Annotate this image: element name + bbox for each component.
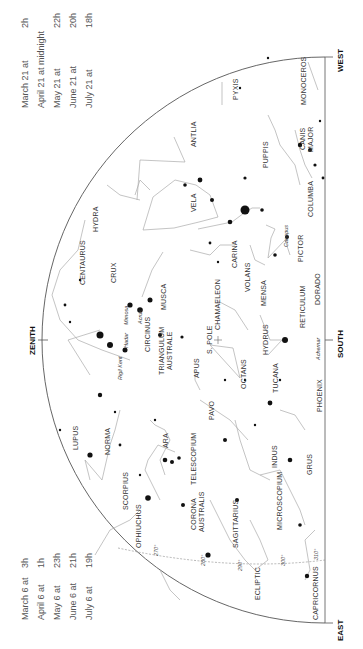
svg-text:1h: 1h (36, 558, 46, 568)
svg-text:CHAMAELEON: CHAMAELEON (214, 279, 221, 330)
svg-text:ANTLIA: ANTLIA (190, 121, 197, 147)
svg-text:April 6 at: April 6 at (36, 584, 46, 620)
svg-text:Hadar: Hadar (123, 332, 129, 348)
svg-text:SAGITTARIUS: SAGITTARIUS (232, 500, 239, 548)
svg-text:MAJOR: MAJOR (307, 127, 314, 153)
svg-text:PYXIS: PYXIS (232, 78, 239, 100)
zenith-label: ZENITH (28, 326, 37, 355)
svg-text:DORADO: DORADO (314, 273, 321, 305)
svg-text:PICTOR: PICTOR (297, 234, 304, 262)
svg-text:COLUMBA: COLUMBA (307, 181, 314, 217)
svg-text:2h: 2h (20, 18, 30, 28)
svg-text:RETICULUM: RETICULUM (299, 285, 306, 328)
svg-text:Canopus: Canopus (283, 225, 289, 247)
svg-text:TUCANA: TUCANA (272, 363, 279, 393)
west-label: WEST (336, 49, 345, 72)
svg-text:OCTANS: OCTANS (240, 359, 247, 389)
svg-text:March 6 at: March 6 at (20, 577, 30, 620)
svg-text:SCORPIUS: SCORPIUS (122, 472, 129, 510)
svg-text:HYDRUS: HYDRUS (262, 324, 269, 355)
svg-text:3h: 3h (20, 558, 30, 568)
svg-text:TELESCOPIUM: TELESCOPIUM (190, 433, 197, 485)
svg-text:20h: 20h (68, 13, 78, 28)
south-pole-marker (214, 336, 222, 344)
svg-text:TRIANGULUM: TRIANGULUM (158, 327, 165, 375)
svg-text:Mimosa: Mimosa (123, 306, 129, 325)
times-top: March 21 at 2h April 21 at midnight May … (20, 13, 94, 108)
svg-text:310°: 310° (313, 548, 319, 560)
svg-text:MENSA: MENSA (260, 280, 267, 306)
svg-text:APUS: APUS (193, 358, 200, 378)
svg-text:CRUX: CRUX (110, 262, 117, 283)
svg-text:April 21 at midnight: April 21 at midnight (36, 30, 46, 108)
svg-text:AUSTRALE: AUSTRALE (166, 331, 173, 370)
svg-text:MONOCEROS: MONOCEROS (300, 56, 307, 105)
svg-text:GRUS: GRUS (306, 454, 313, 475)
svg-text:PAVO: PAVO (208, 400, 215, 420)
svg-text:19h: 19h (84, 553, 94, 568)
svg-text:CARINA: CARINA (231, 240, 238, 268)
svg-text:July 21 at: July 21 at (84, 69, 94, 108)
svg-text:280°: 280° (200, 554, 206, 567)
svg-text:MUSCA: MUSCA (160, 284, 167, 310)
svg-text:AUSTRALIS: AUSTRALIS (198, 491, 205, 532)
svg-text:INDUS: INDUS (271, 445, 278, 468)
svg-text:Achernar: Achernar (315, 337, 321, 361)
svg-text:March 21 at: March 21 at (20, 60, 30, 108)
svg-text:OPHIUCHUS: OPHIUCHUS (135, 504, 142, 548)
svg-text:270°: 270° (153, 544, 159, 557)
svg-text:HYDRA: HYDRA (92, 206, 99, 232)
svg-text:CORONA: CORONA (190, 498, 197, 530)
svg-text:CAPRICORNUS: CAPRICORNUS (312, 566, 319, 620)
svg-text:July 6 at: July 6 at (84, 586, 94, 620)
svg-text:22h: 22h (52, 13, 62, 28)
svg-text:LUPUS: LUPUS (72, 426, 79, 450)
svg-text:CIRCINUS: CIRCINUS (144, 316, 151, 352)
south-label: SOUTH (336, 330, 345, 358)
svg-text:21h: 21h (68, 553, 78, 568)
svg-text:VOLANS: VOLANS (244, 262, 251, 292)
svg-text:May 6 at: May 6 at (52, 585, 62, 620)
times-bottom: March 6 at 3h April 6 at 1h May 6 at 23h… (20, 553, 94, 620)
star-chart: WEST SOUTH EAST ZENITH March 21 at 2h Ap… (0, 0, 363, 649)
svg-text:23h: 23h (52, 553, 62, 568)
svg-text:18h: 18h (84, 13, 94, 28)
svg-text:MICROSCOPIUM: MICROSCOPIUM (276, 472, 283, 530)
east-label: EAST (336, 620, 345, 641)
svg-text:CANIS: CANIS (299, 127, 306, 150)
svg-text:VELA: VELA (190, 193, 197, 212)
svg-text:NORMA: NORMA (104, 428, 111, 455)
svg-text:ARA: ARA (162, 433, 169, 448)
svg-text:300°: 300° (280, 554, 286, 566)
svg-text:CENTAURUS: CENTAURUS (79, 240, 86, 285)
svg-text:June 6 at: June 6 at (68, 582, 78, 620)
svg-text:290°: 290° (237, 559, 243, 572)
svg-text:PUPPIS: PUPPIS (262, 141, 269, 168)
svg-text:Acrux: Acrux (137, 310, 143, 325)
svg-text:June 21 at: June 21 at (68, 65, 78, 108)
svg-text:ECLIPTIC: ECLIPTIC (254, 567, 261, 600)
svg-text:S. POLE: S. POLE (206, 325, 213, 354)
svg-text:Rigil Kent: Rigil Kent (117, 356, 123, 380)
svg-text:May 21 at: May 21 at (52, 68, 62, 108)
svg-text:PHOENIX: PHOENIX (316, 379, 323, 412)
